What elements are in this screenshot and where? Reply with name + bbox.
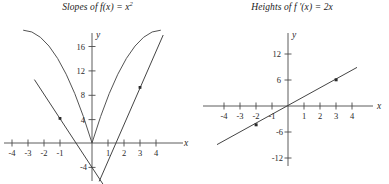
- left-xtick-4: 1: [106, 148, 110, 158]
- left-xtick-6: 3: [138, 148, 142, 158]
- left-xtick-3: -1: [56, 148, 63, 158]
- right-plot-panel: Heights of f '(x) = 2x: [195, 0, 389, 184]
- right-ytick-6: 6: [277, 75, 281, 85]
- left-plot-canvas: x y -4 -3 -2 -1 1 2 3 4 4 8 12 16 -4: [0, 0, 195, 184]
- right-xtick-5: 2: [318, 111, 322, 121]
- right-xtick-0: -4: [220, 111, 228, 121]
- left-axes: [4, 33, 183, 181]
- right-ytick-12: 12: [273, 49, 282, 59]
- right-plot-canvas: x y -4 -3 -2 -1 1 2 3 4 12 6 -6 -12: [195, 0, 389, 184]
- right-xtick-6: 3: [334, 111, 338, 121]
- tangent-line-at-neg2: [34, 80, 108, 184]
- left-ytick-4: 4: [81, 115, 86, 125]
- tangency-point-neg2: [59, 117, 62, 120]
- tangency-point-3: [139, 86, 142, 89]
- left-xtick-0: -4: [8, 148, 16, 158]
- left-xtick-5: 2: [122, 148, 126, 158]
- right-xtick-2: -2: [252, 111, 259, 121]
- right-xtick-3: -1: [268, 111, 275, 121]
- left-xtick-7: 4: [154, 148, 159, 158]
- right-ytick-neg12: -12: [272, 153, 283, 163]
- right-xtick-1: -3: [236, 111, 243, 121]
- tangent-line-at-3: [99, 35, 163, 181]
- right-xtick-4: 1: [302, 111, 306, 121]
- derivative-comparison-figure: Slopes of f(x) = x2: [0, 0, 389, 184]
- derivative-point-3: [335, 78, 338, 81]
- right-axes: [203, 33, 373, 166]
- right-x-axis-label: x: [376, 101, 382, 111]
- left-y-axis-label: y: [95, 30, 101, 40]
- right-ytick-neg6: -6: [276, 127, 283, 137]
- right-xtick-7: 4: [350, 111, 355, 121]
- left-xtick-2: -2: [40, 148, 47, 158]
- left-ytick-16: 16: [77, 42, 86, 52]
- derivative-point-neg2: [255, 123, 258, 126]
- left-plot-panel: Slopes of f(x) = x2: [0, 0, 195, 184]
- right-y-axis-label: y: [291, 30, 297, 40]
- left-ytick-8: 8: [81, 90, 85, 100]
- left-ytick-neg4: -4: [80, 162, 88, 172]
- left-ytick-12: 12: [77, 66, 86, 76]
- left-xtick-1: -3: [24, 148, 31, 158]
- left-x-axis-label: x: [183, 138, 189, 148]
